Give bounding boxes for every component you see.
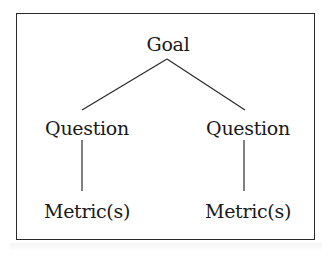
question-node-right: Question: [206, 117, 290, 139]
question-node-left: Question: [45, 117, 129, 139]
goal-node: Goal: [147, 33, 190, 55]
metric-node-left: Metric(s): [44, 200, 130, 222]
metric-node-right: Metric(s): [205, 200, 291, 222]
scan-shadow: [10, 243, 322, 251]
